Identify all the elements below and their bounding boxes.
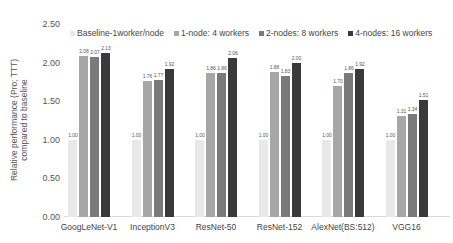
bar-value-label: 2.13 [96,45,116,51]
bar [355,69,364,217]
bar [419,100,428,217]
x-tick-label: InceptionV3 [118,222,188,232]
bar [206,73,215,217]
plot-area: 1.002.082.072.131.001.761.771.921.001.86… [64,24,450,217]
bar-value-label: 1.51 [414,92,434,98]
bar [259,140,268,217]
bar [397,116,406,217]
y-tick-label: 2.00 [36,58,60,68]
bar [101,53,110,217]
bar [228,58,237,217]
bar [322,140,331,217]
bar [90,57,99,217]
y-axis-label-line-2: compared to baseline [19,30,29,210]
bar [292,63,301,217]
x-tick-label: VGG16 [372,222,442,232]
y-tick-label: 1.00 [36,135,60,145]
bar-chart: Relative performance (Pro; TTT) compared… [0,0,453,243]
bar-value-label: 1.92 [350,61,370,67]
bar [68,140,77,217]
y-tick-label: 2.50 [36,19,60,29]
bar-value-label: 1.92 [160,61,180,67]
y-axis-label: Relative performance (Pro; TTT) compared… [9,30,39,210]
bar [333,86,342,217]
y-tick-label: 0.50 [36,173,60,183]
bar [217,73,226,217]
bar-value-label: 2.06 [223,50,243,56]
bar [386,140,395,217]
bar [143,81,152,217]
bar [270,72,279,217]
y-axis-label-line-1: Relative performance (Pro; TTT) [9,30,19,210]
bar [195,140,204,217]
bar [281,76,290,217]
bar [344,73,353,217]
y-tick-label: 1.50 [36,96,60,106]
x-tick-label: ResNet-50 [181,222,251,232]
bar-value-label: 2.00 [287,55,307,61]
x-tick-label: ResNet-152 [245,222,315,232]
bar [79,56,88,217]
bar [165,69,174,217]
x-tick-label: GoogLeNet-V1 [54,222,124,232]
y-tick-label: 0.00 [36,212,60,222]
x-tick-label: AlexNet(BS:512) [308,222,378,232]
bar [132,140,141,217]
bar [408,114,417,217]
bar [154,80,163,217]
